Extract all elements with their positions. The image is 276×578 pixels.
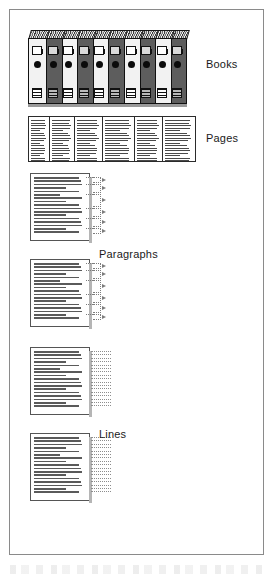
page-text-line — [137, 160, 157, 161]
line-marker — [91, 474, 111, 475]
binder-ring-dot-icon — [174, 61, 181, 68]
line-marker — [91, 468, 111, 469]
page-text-line — [165, 130, 180, 131]
line-marker — [91, 478, 111, 479]
text-line — [34, 228, 66, 230]
page-text-line — [137, 145, 155, 146]
page-text-line — [52, 135, 70, 136]
text-line — [34, 368, 60, 370]
binder-tag-icon — [32, 88, 42, 98]
page-text-line — [105, 125, 131, 126]
page-text-line — [77, 160, 97, 161]
text-line — [34, 371, 82, 373]
page-text-line — [31, 128, 45, 129]
text-line — [34, 485, 82, 487]
line-marker — [91, 395, 111, 396]
paragraph-arrow-icon — [102, 198, 106, 202]
page-text-line — [31, 138, 46, 139]
page-text-line — [77, 140, 96, 141]
page-text-line — [77, 123, 97, 124]
text-line — [34, 354, 81, 356]
binder-ring-dot-icon — [65, 61, 72, 68]
paragraph-arrow-icon — [102, 272, 106, 276]
text-line — [34, 218, 79, 220]
page-text-line — [165, 150, 190, 151]
page-text-line — [165, 120, 190, 121]
binder-window-icon — [126, 46, 136, 55]
text-line — [34, 388, 66, 390]
page-text-line — [105, 133, 127, 134]
page-text-line — [31, 160, 45, 161]
page-text-line — [105, 140, 128, 141]
page-text-line — [31, 150, 45, 151]
text-line — [34, 481, 81, 483]
pages-label: Pages — [206, 132, 238, 144]
binder-window-icon — [157, 46, 167, 55]
page-text-line — [137, 135, 157, 136]
binder-window-icon — [94, 46, 104, 55]
text-line — [34, 361, 66, 363]
paragraph-arrow-icon — [102, 229, 106, 233]
text-line — [34, 385, 82, 387]
text-line — [34, 180, 81, 182]
page-text-line — [105, 150, 129, 151]
page-text-line — [77, 120, 97, 121]
page-text-line — [137, 153, 156, 154]
text-line — [34, 304, 79, 306]
page-text-line — [105, 128, 129, 129]
page-text-line — [77, 155, 90, 156]
text-line — [34, 287, 66, 289]
paragraph-arrow-icon — [102, 264, 106, 268]
text-line — [34, 358, 82, 360]
line-marker — [91, 402, 111, 403]
page-text-line — [52, 128, 70, 129]
text-line — [34, 461, 66, 463]
paragraph-tick — [86, 263, 93, 264]
paragraph-arrow-icon — [102, 306, 106, 310]
binder-window-icon — [48, 46, 58, 55]
paragraph-arrow-icon — [102, 284, 106, 288]
page-text-line — [137, 120, 157, 121]
text-line — [34, 280, 60, 282]
line-marker — [91, 351, 111, 352]
page-text-line — [52, 138, 71, 139]
text-line — [34, 294, 81, 296]
line-marker — [91, 440, 111, 441]
text-line — [34, 273, 66, 275]
binder-tag-icon — [63, 88, 73, 98]
line-marker — [91, 405, 111, 406]
page-text-line — [137, 148, 157, 149]
paragraph-arrow-icon — [102, 296, 106, 300]
text-line — [34, 187, 66, 189]
page-text-line — [105, 123, 129, 124]
text-line — [34, 405, 79, 407]
page-text-line — [137, 158, 157, 159]
paragraph-brace — [93, 304, 101, 313]
page-shadow — [89, 263, 92, 329]
page-text-line — [165, 160, 189, 161]
page-text-line — [31, 153, 44, 154]
line-marker — [91, 371, 111, 372]
binder-window-icon — [110, 46, 120, 55]
text-line — [34, 231, 79, 233]
page-text-line — [77, 135, 97, 136]
page-text-line — [31, 148, 45, 149]
paragraph-brace — [93, 194, 101, 207]
page-text-line — [52, 153, 69, 154]
line-marker — [91, 471, 111, 472]
page-text-line — [31, 143, 40, 144]
text-line — [34, 464, 79, 466]
line-marker — [91, 461, 111, 462]
paragraph-tick — [86, 228, 93, 229]
page-text-line — [137, 143, 150, 144]
page-sheet — [49, 116, 75, 162]
page-text-line — [105, 120, 129, 121]
page-text-line — [105, 135, 129, 136]
page-text-line — [52, 145, 68, 146]
line-marker — [91, 375, 111, 376]
page-text-line — [105, 143, 120, 144]
page-text-line — [52, 160, 69, 161]
binder-window-icon — [63, 46, 73, 55]
binder-ring-dot-icon — [96, 61, 103, 68]
paragraph-arrow-icon — [102, 210, 106, 214]
